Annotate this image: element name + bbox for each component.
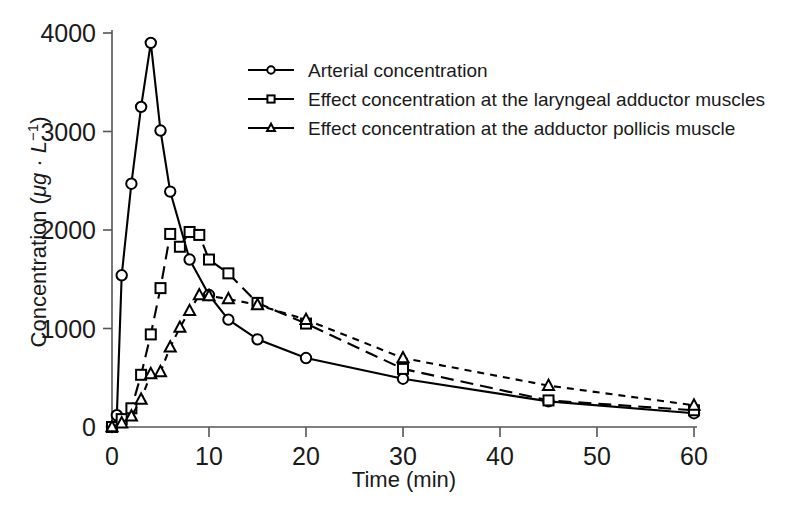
x-tick-label: 20 [292, 442, 320, 470]
data-point-circle [398, 374, 408, 384]
data-point-triangle [543, 380, 554, 390]
x-tick-label: 50 [583, 442, 611, 470]
data-point-circle [301, 353, 311, 363]
legend-item: Effect concentration at the adductor pol… [248, 118, 735, 139]
x-axis-title: Time (min) [352, 467, 456, 492]
data-point-square [194, 230, 204, 240]
data-point-square [156, 283, 166, 293]
data-point-square [165, 229, 175, 239]
data-point-circle [126, 179, 136, 189]
data-point-triangle [136, 393, 147, 403]
series-markers-square [107, 227, 699, 432]
x-tick-label: 60 [680, 442, 708, 470]
data-point-circle [155, 125, 165, 135]
data-point-square [544, 395, 554, 405]
data-point-square [223, 268, 233, 278]
x-axis-ticks: 0102030405060 [105, 427, 708, 470]
data-point-square [204, 255, 214, 265]
legend-item: Arterial concentration [248, 60, 488, 81]
data-point-square [185, 227, 195, 237]
data-point-circle [146, 38, 156, 48]
data-point-circle [117, 270, 127, 280]
data-point-circle [223, 314, 233, 324]
data-point-triangle [194, 289, 205, 299]
concentration-vs-time-line-chart: 01000200030004000 0102030405060 Time (mi… [0, 0, 809, 510]
data-point-triangle [688, 399, 699, 409]
legend-label: Effect concentration at the adductor pol… [308, 118, 735, 139]
data-point-triangle [184, 305, 195, 315]
x-tick-label: 10 [195, 442, 223, 470]
data-point-circle [136, 102, 146, 112]
series-line-square [112, 232, 694, 427]
x-tick-label: 0 [105, 442, 119, 470]
series-markers-triangle [106, 289, 699, 431]
data-point-circle [184, 254, 194, 264]
y-axis-title-rotated: Concentration (μg · L−1) [24, 117, 51, 348]
data-point-circle [165, 186, 175, 196]
data-point-triangle [165, 341, 176, 351]
data-point-triangle [300, 314, 311, 324]
data-point-square [175, 242, 185, 252]
series-square [107, 227, 699, 432]
x-tick-label: 30 [389, 442, 417, 470]
data-point-square [398, 364, 408, 374]
legend-label: Effect concentration at the laryngeal ad… [308, 89, 765, 110]
y-tick-label: 4000 [40, 19, 96, 47]
data-point-square [267, 95, 274, 102]
series-triangle [106, 289, 699, 431]
data-point-circle [267, 66, 274, 73]
y-axis-title-text: Concentration (μg · L−1) [24, 117, 51, 348]
data-point-triangle [223, 293, 234, 303]
y-axis-ticks: 01000200030004000 [40, 19, 112, 441]
chart-figure: 01000200030004000 0102030405060 Time (mi… [0, 0, 809, 510]
y-tick-label: 0 [82, 413, 96, 441]
data-point-triangle [397, 352, 408, 362]
data-point-circle [252, 334, 262, 344]
data-point-triangle [174, 322, 185, 332]
chart-legend: Arterial concentrationEffect concentrati… [248, 60, 765, 139]
legend-label: Arterial concentration [308, 60, 488, 81]
data-point-square [146, 329, 156, 339]
y-axis-title: Concentration (μg · L−1) [24, 117, 51, 348]
x-tick-label: 40 [486, 442, 514, 470]
legend-item: Effect concentration at the laryngeal ad… [248, 89, 765, 110]
data-point-triangle [267, 124, 275, 131]
data-point-triangle [155, 366, 166, 376]
